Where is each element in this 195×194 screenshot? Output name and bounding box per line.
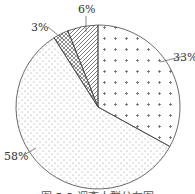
- figure-caption: 图 5-3 调查人群分布图: [0, 188, 195, 194]
- slice-label-3: 3%: [31, 22, 48, 33]
- pie-slices: [16, 25, 180, 189]
- slice-label-33: 33%: [173, 52, 195, 63]
- slice-label-6: 6%: [78, 4, 95, 15]
- pie-chart: [0, 0, 195, 194]
- slice-label-58: 58%: [4, 151, 28, 162]
